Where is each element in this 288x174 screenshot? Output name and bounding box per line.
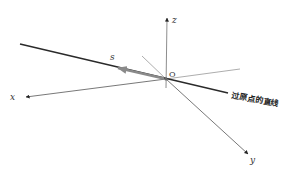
origin-label: O [169, 70, 176, 79]
x-axis: x [10, 69, 240, 102]
vector-s-label: s [110, 52, 115, 62]
origin-dot [164, 77, 167, 80]
x-axis-back-segment [166, 69, 240, 79]
y-axis-front-segment [166, 79, 248, 154]
x-axis-label: x [10, 92, 15, 102]
y-axis: y [142, 56, 256, 165]
z-axis-label: z [171, 15, 177, 25]
direction-vector-s: s [110, 52, 164, 79]
y-axis-label: y [249, 155, 256, 165]
line-through-origin-label: 过原点的直线 [231, 90, 280, 108]
vector-s-arrow [118, 68, 164, 79]
line-through-origin-diagram: x y z 过原点的直线 s O [0, 0, 288, 174]
x-axis-front-segment [26, 79, 166, 97]
